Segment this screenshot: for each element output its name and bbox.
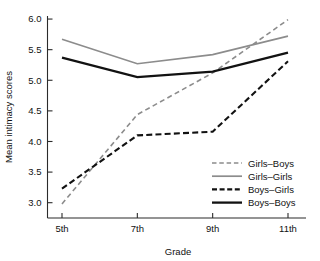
chart-canvas: 3.03.54.04.55.05.56.0 5th7th9th11th Grad… xyxy=(0,0,320,261)
legend-label: Girls–Boys xyxy=(248,158,294,169)
legend-label: Boys–Girls xyxy=(248,184,294,195)
intimacy-scores-line-chart: 3.03.54.04.55.05.56.0 5th7th9th11th Grad… xyxy=(0,0,320,261)
y-tick-label: 4.0 xyxy=(28,136,41,147)
x-axis-title: Grade xyxy=(165,246,191,257)
x-tick-label: 5th xyxy=(55,223,68,234)
series-line-boys-boys xyxy=(62,53,288,77)
y-tick-label: 3.0 xyxy=(28,197,41,208)
series-line-girls-girls xyxy=(62,36,288,64)
x-tick-label: 9th xyxy=(206,223,219,234)
legend-label: Girls–Girls xyxy=(248,171,293,182)
y-tick-label: 6.0 xyxy=(28,13,41,24)
y-tick-label: 5.5 xyxy=(28,44,41,55)
y-axis-ticks: 3.03.54.04.55.05.56.0 xyxy=(28,13,52,208)
series-line-boys-girls xyxy=(62,61,288,188)
x-axis-ticks: 5th7th9th11th xyxy=(55,213,297,234)
y-tick-label: 3.5 xyxy=(28,166,41,177)
legend-label: Boys–Boys xyxy=(248,197,296,208)
x-tick-label: 11th xyxy=(279,223,297,234)
y-tick-label: 4.5 xyxy=(28,105,41,116)
legend: Girls–BoysGirls–GirlsBoys–GirlsBoys–Boys xyxy=(212,158,296,209)
y-tick-label: 5.0 xyxy=(28,75,41,86)
y-axis-title: Mean intimacy scores xyxy=(3,71,14,163)
x-tick-label: 7th xyxy=(131,223,144,234)
